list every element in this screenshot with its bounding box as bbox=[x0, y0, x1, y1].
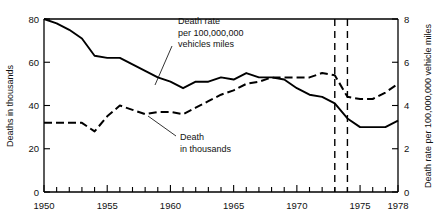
y2-tick-label-4: 4 bbox=[404, 100, 409, 111]
y2-axis-title: Death rate per 100,000,000 vehicle miles bbox=[423, 23, 433, 188]
y2-tick-label-2: 2 bbox=[404, 143, 409, 154]
death-thousands-annotation-line-1: in thousands bbox=[180, 144, 232, 154]
y-tick-label-0: 0 bbox=[34, 187, 39, 198]
y-tick-label-80: 80 bbox=[28, 14, 39, 25]
x-tick-label-1975: 1975 bbox=[350, 200, 371, 211]
death-rate-annotation-line-2: vehicles miles bbox=[178, 39, 235, 49]
y-axis-title: Deaths in thousands bbox=[5, 64, 15, 147]
x-tick-label-1965: 1965 bbox=[223, 200, 244, 211]
x-tick-label-1960: 1960 bbox=[160, 200, 181, 211]
x-tick-label-1950: 1950 bbox=[33, 200, 54, 211]
death-rate-annotation-line-0: Death rate bbox=[178, 16, 220, 26]
y2-tick-label-0: 0 bbox=[404, 187, 409, 198]
death-thousands-annotation-line-0: Death bbox=[180, 132, 204, 142]
x-tick-label-1970: 1970 bbox=[286, 200, 307, 211]
y-tick-label-60: 60 bbox=[28, 57, 39, 68]
y-tick-label-40: 40 bbox=[28, 100, 39, 111]
chart-container: 1950195519601965197019751978 020406080 0… bbox=[0, 0, 442, 221]
x-tick-label-1978: 1978 bbox=[387, 200, 408, 211]
traffic-deaths-line-chart: 1950195519601965197019751978 020406080 0… bbox=[0, 0, 442, 221]
y-tick-label-20: 20 bbox=[28, 143, 39, 154]
death-rate-annotation-line-1: per 100,000,000 bbox=[178, 28, 244, 38]
y2-tick-label-6: 6 bbox=[404, 57, 409, 68]
y2-tick-label-8: 8 bbox=[404, 14, 409, 25]
x-tick-label-1955: 1955 bbox=[97, 200, 118, 211]
